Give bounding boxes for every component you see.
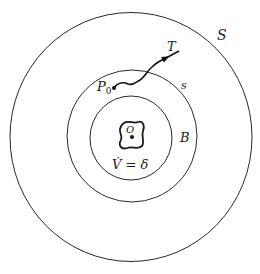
- label-P: P: [96, 79, 106, 94]
- start-point-dot: [112, 86, 116, 90]
- label-P0: P0: [96, 79, 112, 96]
- label-B: B: [179, 130, 190, 145]
- label-equation: V̇ = δ: [112, 157, 149, 172]
- label-O: O: [126, 124, 134, 135]
- label-s: s: [181, 79, 187, 92]
- label-T: T: [167, 39, 177, 54]
- lyapunov-diagram: S s B T P0 O V̇ = δ: [0, 0, 260, 274]
- label-P-subscript: 0: [106, 86, 112, 96]
- trajectory-T: [114, 58, 166, 88]
- origin-dot: [130, 135, 134, 139]
- label-S: S: [217, 27, 227, 43]
